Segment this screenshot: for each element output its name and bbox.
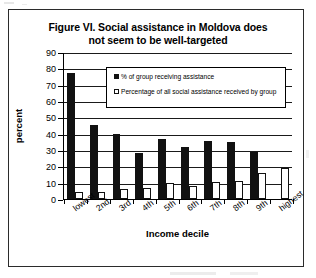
bar-series-2 xyxy=(143,188,151,199)
x-tick-label-5th: 5th xyxy=(162,198,177,213)
y-tick-label-10: 10 xyxy=(34,179,56,189)
bar-series-2 xyxy=(212,182,220,199)
y-tick-label-0: 0 xyxy=(34,195,56,205)
x-tick-5th xyxy=(156,199,157,204)
y-tick-30 xyxy=(58,151,63,152)
x-tick-label-4th: 4th xyxy=(140,198,155,213)
y-tick-label-50: 50 xyxy=(34,113,56,123)
y-tick-50 xyxy=(58,118,63,119)
y-tick-label-20: 20 xyxy=(34,162,56,172)
y-tick-label-80: 80 xyxy=(34,64,56,74)
x-tick-3rd xyxy=(110,199,111,204)
legend-item-series-2: Percentage of all social assistance rece… xyxy=(114,88,285,95)
bar-series-2 xyxy=(166,183,174,199)
y-tick-label-40: 40 xyxy=(34,130,56,140)
y-tick-40 xyxy=(58,135,63,136)
x-tick-end xyxy=(293,199,294,204)
x-tick-highest xyxy=(270,199,271,204)
bar-series-2 xyxy=(235,181,243,199)
y-tick-20 xyxy=(58,167,63,168)
bar-series-1 xyxy=(113,134,121,199)
y-tick-label-90: 90 xyxy=(34,48,56,58)
y-tick-10 xyxy=(58,184,63,185)
y-tick-0 xyxy=(58,200,63,201)
legend-swatch-dark-icon xyxy=(114,74,119,79)
legend-item-series-1: % of group receiving assistance xyxy=(114,73,285,80)
bar-series-1 xyxy=(250,152,258,199)
x-tick-6th xyxy=(179,199,180,204)
legend-label-series-1: % of group receiving assistance xyxy=(121,73,214,80)
bar-series-1 xyxy=(67,73,75,199)
bar-group xyxy=(64,53,87,199)
x-tick-label-6th: 6th xyxy=(185,198,200,213)
bar-series-1 xyxy=(181,147,189,199)
x-tick-7th xyxy=(201,199,202,204)
x-tick-4th xyxy=(133,199,134,204)
x-axis-title: Income decile xyxy=(63,228,292,239)
x-tick-label-9th: 9th xyxy=(254,198,269,213)
x-tick-9th xyxy=(247,199,248,204)
bar-series-2 xyxy=(258,173,266,199)
x-tick-label-8th: 8th xyxy=(231,198,246,213)
y-tick-70 xyxy=(58,86,63,87)
x-tick-label-3rd: 3rd xyxy=(117,198,133,213)
x-tick-2nd xyxy=(87,199,88,204)
legend-swatch-light-icon xyxy=(114,89,119,94)
bar-series-1 xyxy=(204,141,212,199)
y-tick-60 xyxy=(58,102,63,103)
y-tick-80 xyxy=(58,69,63,70)
chart-legend: % of group receiving assistance Percenta… xyxy=(106,67,286,108)
y-tick-label-30: 30 xyxy=(34,146,56,156)
y-tick-label-60: 60 xyxy=(34,97,56,107)
bar-series-2 xyxy=(281,168,289,199)
figure-border: Figure VI. Social assistance in Moldova … xyxy=(8,9,304,267)
plot-wrapper: percent 0102030405060708090 lowest2nd3rd… xyxy=(9,10,305,268)
bar-series-2 xyxy=(189,186,197,199)
bar-series-1 xyxy=(90,125,98,199)
legend-label-series-2: Percentage of all social assistance rece… xyxy=(121,88,276,95)
bar-series-1 xyxy=(135,153,143,199)
y-tick-90 xyxy=(58,53,63,54)
x-tick-lowest xyxy=(64,199,65,204)
x-tick-8th xyxy=(224,199,225,204)
y-tick-label-70: 70 xyxy=(34,81,56,91)
bar-series-1 xyxy=(227,142,235,199)
x-tick-label-7th: 7th xyxy=(208,198,223,213)
bar-series-1 xyxy=(158,139,166,199)
y-axis-title: percent xyxy=(13,109,24,143)
